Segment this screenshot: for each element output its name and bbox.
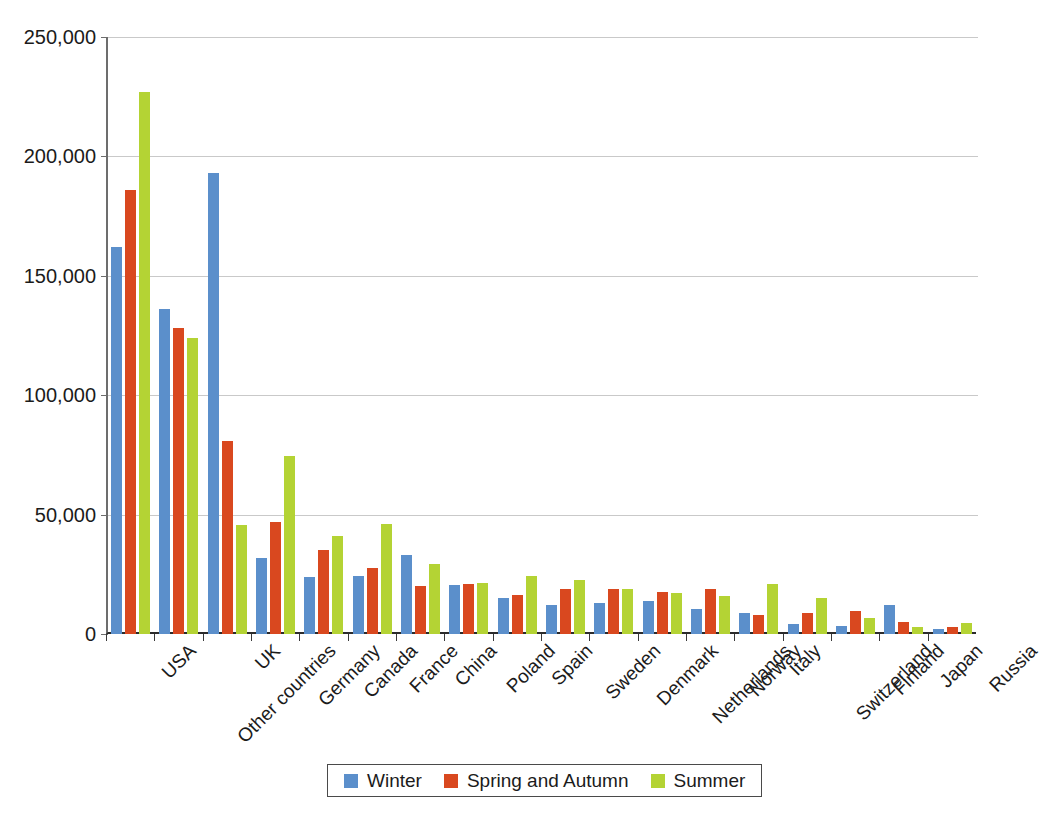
bar-summer[interactable] <box>139 92 150 634</box>
bar-summer[interactable] <box>187 338 198 634</box>
legend-entry[interactable]: Summer <box>651 771 746 790</box>
legend-swatch <box>344 774 358 788</box>
bar-spring[interactable] <box>367 568 378 634</box>
x-axis-tick-label: Poland <box>502 640 559 697</box>
bar-spring[interactable] <box>222 441 233 634</box>
bar-winter[interactable] <box>208 173 219 634</box>
bar-group <box>879 37 927 634</box>
bar-summer[interactable] <box>332 536 343 634</box>
bar-group <box>638 37 686 634</box>
bar-winter[interactable] <box>691 609 702 634</box>
x-axis-tick-label: USA <box>158 640 201 683</box>
x-axis-tick-label: Denmark <box>652 640 722 710</box>
bar-winter[interactable] <box>111 247 122 634</box>
bar-group <box>589 37 637 634</box>
bar-winter[interactable] <box>159 309 170 634</box>
bar-summer[interactable] <box>719 596 730 634</box>
bar-summer[interactable] <box>284 456 295 634</box>
bar-winter[interactable] <box>836 626 847 634</box>
bar-summer[interactable] <box>526 576 537 635</box>
bar-winter[interactable] <box>546 605 557 634</box>
bar-spring[interactable] <box>173 328 184 634</box>
bar-summer[interactable] <box>574 580 585 634</box>
bar-spring[interactable] <box>802 613 813 634</box>
bar-spring[interactable] <box>657 592 668 634</box>
bar-winter[interactable] <box>498 598 509 634</box>
legend-entry[interactable]: Spring and Autumn <box>444 771 629 790</box>
y-axis-tick-label: 150,000 <box>24 266 96 286</box>
bar-group <box>154 37 202 634</box>
legend-swatch <box>651 774 665 788</box>
bar-summer[interactable] <box>671 593 682 634</box>
bar-summer[interactable] <box>961 623 972 634</box>
bar-winter[interactable] <box>933 629 944 634</box>
bar-spring[interactable] <box>415 586 426 634</box>
bar-summer[interactable] <box>912 627 923 634</box>
bar-group <box>299 37 347 634</box>
bar-spring[interactable] <box>705 589 716 634</box>
bar-spring[interactable] <box>463 584 474 634</box>
y-axis-tick-labels: 050,000100,000150,000200,000250,000 <box>0 0 96 828</box>
bar-summer[interactable] <box>236 525 247 634</box>
bar-group <box>831 37 879 634</box>
bar-winter[interactable] <box>643 601 654 634</box>
bar-summer[interactable] <box>381 524 392 634</box>
bar-spring[interactable] <box>898 622 909 634</box>
y-axis-tick-label: 100,000 <box>24 385 96 405</box>
legend-label: Spring and Autumn <box>467 771 629 790</box>
bar-spring[interactable] <box>608 589 619 634</box>
bar-summer[interactable] <box>429 564 440 634</box>
bar-summer[interactable] <box>816 598 827 634</box>
legend-swatch <box>444 774 458 788</box>
x-axis-tick-label: UK <box>251 640 285 674</box>
bar-winter[interactable] <box>788 624 799 634</box>
bar-spring[interactable] <box>947 627 958 634</box>
x-axis-tick-label: Japan <box>935 640 987 692</box>
bar-group <box>251 37 299 634</box>
x-axis-tick-labels: USAOther countriesUKGermanyCanadaFranceC… <box>106 640 1002 750</box>
bar-group <box>928 37 976 634</box>
bar-winter[interactable] <box>353 576 364 635</box>
bar-summer[interactable] <box>477 583 488 634</box>
chart-legend: WinterSpring and AutumnSummer <box>327 764 762 797</box>
legend-label: Summer <box>674 771 746 790</box>
y-axis-tick-label: 0 <box>85 624 96 644</box>
y-axis-tick-label: 50,000 <box>35 505 96 525</box>
bar-summer[interactable] <box>622 589 633 634</box>
y-axis-tick-label: 250,000 <box>24 27 96 47</box>
bar-summer[interactable] <box>864 618 875 634</box>
bar-winter[interactable] <box>739 613 750 634</box>
bar-winter[interactable] <box>304 577 315 634</box>
bar-group <box>493 37 541 634</box>
bar-group <box>396 37 444 634</box>
bar-spring[interactable] <box>270 522 281 634</box>
x-axis-tick-label: Spain <box>547 640 597 690</box>
bar-spring[interactable] <box>318 550 329 634</box>
bar-group <box>203 37 251 634</box>
bar-group <box>541 37 589 634</box>
y-axis-tick-label: 200,000 <box>24 146 96 166</box>
bar-winter[interactable] <box>884 605 895 634</box>
bar-group <box>348 37 396 634</box>
bar-spring[interactable] <box>850 611 861 634</box>
bar-group <box>686 37 734 634</box>
bar-spring[interactable] <box>560 589 571 634</box>
legend-entry[interactable]: Winter <box>344 771 422 790</box>
bars-layer <box>106 37 976 634</box>
bar-spring[interactable] <box>753 615 764 634</box>
bar-group <box>783 37 831 634</box>
bar-winter[interactable] <box>594 603 605 634</box>
bar-summer[interactable] <box>767 584 778 634</box>
legend-label: Winter <box>367 771 422 790</box>
bar-group <box>444 37 492 634</box>
bar-winter[interactable] <box>256 558 267 634</box>
bar-group <box>106 37 154 634</box>
bar-winter[interactable] <box>401 555 412 634</box>
bar-spring[interactable] <box>125 190 136 634</box>
x-axis-tick-label: Russia <box>985 640 1041 697</box>
bar-group <box>734 37 782 634</box>
bar-winter[interactable] <box>449 585 460 634</box>
x-axis-tick-label: China <box>451 640 502 691</box>
bar-spring[interactable] <box>512 595 523 634</box>
